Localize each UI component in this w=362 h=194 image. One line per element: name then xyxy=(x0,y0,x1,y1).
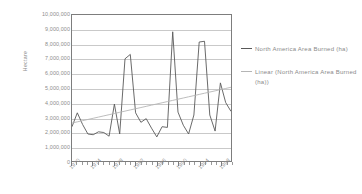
y-axis-tick-label: 6,000,000 xyxy=(45,70,70,76)
y-axis-title: Hectare xyxy=(22,31,28,91)
x-axis-minor-tick xyxy=(130,162,131,165)
y-axis-tick-label: 1,000,000 xyxy=(45,144,70,150)
x-axis-minor-tick xyxy=(211,162,212,165)
y-axis-tick-label: 2,000,000 xyxy=(45,129,70,135)
line-marker-light-icon xyxy=(241,71,252,72)
y-axis-tick-label: 5,000,000 xyxy=(45,85,70,91)
x-axis-minor-tick xyxy=(173,162,174,165)
plot-lines xyxy=(72,15,231,161)
y-axis-tick-label: 3,000,000 xyxy=(45,115,70,121)
y-axis-tick-label: 7,000,000 xyxy=(45,55,70,61)
series-line-path xyxy=(72,32,231,137)
plot-area xyxy=(71,14,232,162)
x-axis-minor-tick xyxy=(232,162,233,165)
x-axis-minor-tick xyxy=(194,162,195,165)
y-axis-tick-label: 10,000,000 xyxy=(42,11,70,17)
legend-label: Linear (North America Area Burned (ha)) xyxy=(255,67,359,87)
legend-entry[interactable]: North America Area Burned (ha) xyxy=(241,44,361,54)
line-marker-dark-icon xyxy=(241,48,252,49)
x-axis-minor-tick xyxy=(152,162,153,165)
x-axis-labels: 19701974197819821986199019941998 xyxy=(71,166,241,194)
x-axis-minor-tick xyxy=(168,162,169,165)
y-axis-tick-label: 9,000,000 xyxy=(45,26,70,32)
trendline-path xyxy=(72,87,231,123)
chart-legend: North America Area Burned (ha)Linear (No… xyxy=(241,44,361,100)
chart-container: Hectare 10,000,0009,000,0008,000,0007,00… xyxy=(0,0,362,194)
x-axis-minor-tick xyxy=(189,162,190,165)
x-axis-minor-tick xyxy=(216,162,217,165)
y-axis-labels: 10,000,0009,000,0008,000,0007,000,0006,0… xyxy=(30,14,70,162)
legend-label: North America Area Burned (ha) xyxy=(255,44,348,54)
x-axis-minor-tick xyxy=(125,162,126,165)
x-axis-minor-tick xyxy=(109,162,110,165)
y-axis-tick-label: 4,000,000 xyxy=(45,100,70,106)
x-axis-minor-tick xyxy=(87,162,88,165)
x-axis-minor-tick xyxy=(146,162,147,165)
y-axis-tick-label: 8,000,000 xyxy=(45,41,70,47)
x-axis-minor-tick xyxy=(82,162,83,165)
x-axis-minor-tick xyxy=(103,162,104,165)
legend-entry[interactable]: Linear (North America Area Burned (ha)) xyxy=(241,67,361,87)
